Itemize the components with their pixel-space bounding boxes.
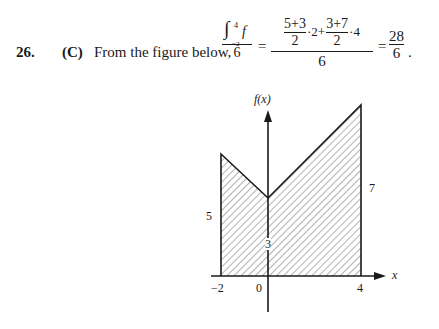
x-tick-0: 0: [256, 281, 262, 296]
height-label-right: 7: [369, 181, 375, 196]
y-axis-arrow: [264, 110, 272, 122]
x-axis-label: x: [392, 268, 397, 283]
height-label-left: 5: [206, 209, 212, 224]
x-axis-arrow: [374, 272, 386, 280]
x-tick-neg2: −2: [211, 281, 224, 296]
y-axis-label: f(x): [254, 92, 271, 107]
function-area-figure: [0, 0, 439, 329]
x-tick-4: 4: [357, 281, 363, 296]
shaded-area: [221, 105, 361, 276]
height-label-middle: 3: [265, 238, 271, 250]
